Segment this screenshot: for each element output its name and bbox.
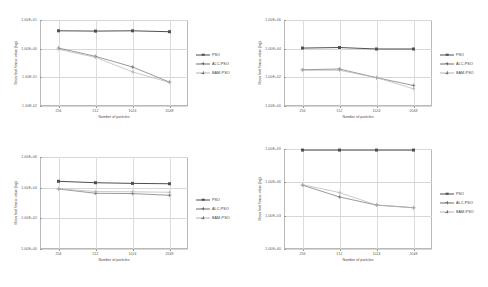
data-point-marker	[338, 149, 341, 152]
series-layer	[40, 20, 188, 106]
y-axis-tick-label: 1.00E+00	[21, 47, 40, 51]
legend-marker-icon	[446, 192, 449, 195]
x-axis-tick-label: 256	[300, 109, 306, 113]
legend-item-pso[interactable]: PSO	[440, 52, 474, 57]
data-point-marker	[57, 29, 60, 32]
legend-symbol-icon	[440, 200, 454, 205]
y-axis-tick-label: 1.00E+06	[265, 18, 284, 22]
series-layer	[284, 20, 432, 106]
x-axis-tick-label: 2048	[410, 252, 418, 256]
y-axis-tick-label: 1.00E-01	[22, 75, 40, 79]
y-axis-tick-label: 1.00E+02	[265, 75, 284, 79]
legend-item-pso[interactable]: PSO	[440, 191, 474, 196]
legend-label: PSO	[212, 53, 220, 57]
figure-grid: 1.00E-021.00E-011.00E+001.00E+0125651210…	[0, 0, 488, 287]
data-point-marker	[301, 68, 305, 72]
legend: PSOALC-PSOBAM-PSO	[440, 52, 474, 75]
data-point-marker	[412, 206, 416, 210]
legend-label: BAM-PSO	[212, 216, 230, 220]
legend-marker-icon	[201, 207, 204, 210]
legend-label: BAM-PSO	[456, 210, 474, 214]
data-point-marker	[94, 181, 97, 184]
legend-symbol-icon	[196, 61, 210, 66]
data-point-marker	[131, 182, 134, 185]
y-axis-tick-label: 1.00E-02	[22, 104, 40, 108]
legend-item-bam-pso[interactable]: BAM-PSO	[440, 209, 474, 214]
series-line-alc-pso	[303, 69, 414, 85]
data-point-marker	[131, 65, 135, 69]
legend-symbol-icon	[196, 70, 210, 75]
legend: PSOALC-PSOBAM-PSO	[196, 52, 230, 75]
y-axis-tick-label: 1.00E+02	[21, 216, 40, 220]
x-axis-tick-mark	[170, 106, 171, 108]
data-point-marker	[375, 149, 378, 152]
x-axis-tick-mark	[377, 249, 378, 251]
x-axis-tick-mark	[303, 249, 304, 251]
legend-marker-icon	[201, 62, 204, 65]
series-line-pso	[59, 181, 170, 183]
legend-marker-icon	[445, 62, 448, 65]
legend-item-bam-pso[interactable]: BAM-PSO	[196, 215, 230, 220]
data-point-marker	[168, 30, 171, 33]
data-point-marker	[131, 29, 134, 32]
y-axis-tick-label: 1.00E+09	[265, 147, 284, 151]
y-axis-tick-label: 1.00E+00	[265, 247, 284, 251]
data-point-marker	[412, 149, 415, 152]
x-axis-tick-mark	[303, 106, 304, 108]
series-layer	[284, 149, 432, 249]
series-line-bam-pso	[59, 189, 170, 193]
legend-item-bam-pso[interactable]: BAM-PSO	[196, 70, 230, 75]
data-point-marker	[338, 191, 342, 195]
series-line-bam-pso	[303, 185, 414, 208]
data-point-marker	[168, 190, 172, 194]
data-point-marker	[338, 46, 341, 49]
x-axis-tick-mark	[133, 106, 134, 108]
legend-label: ALC-PSO	[212, 62, 229, 66]
x-axis-tick-mark	[59, 106, 60, 108]
legend-label: PSO	[456, 192, 464, 196]
x-axis-tick-mark	[340, 106, 341, 108]
legend-symbol-icon	[440, 209, 454, 214]
series-line-pso	[59, 31, 170, 32]
x-axis-tick-label: 512	[337, 252, 343, 256]
chart-panel-top-left: 1.00E-021.00E-011.00E+001.00E+0125651210…	[0, 0, 244, 143]
legend-item-alc-pso[interactable]: ALC-PSO	[196, 61, 230, 66]
x-axis-tick-label: 512	[93, 109, 99, 113]
legend-marker-icon	[446, 53, 449, 56]
legend-item-bam-pso[interactable]: BAM-PSO	[440, 70, 474, 75]
data-point-marker	[412, 87, 416, 91]
y-axis-tick-label: 1.00E+00	[21, 247, 40, 251]
data-point-marker	[375, 76, 379, 80]
legend: PSOALC-PSOBAM-PSO	[440, 191, 474, 214]
data-point-marker	[168, 182, 171, 185]
y-axis-title: Mean final fitness value (log)	[14, 181, 18, 224]
data-point-marker	[412, 47, 415, 50]
legend-item-pso[interactable]: PSO	[196, 52, 230, 57]
legend-item-pso[interactable]: PSO	[196, 197, 230, 202]
y-axis-title: Mean final fitness value (log)	[14, 41, 18, 84]
x-axis-tick-label: 1024	[373, 252, 381, 256]
x-axis-tick-label: 512	[93, 252, 99, 256]
x-axis-tick-mark	[96, 106, 97, 108]
legend-label: ALC-PSO	[456, 201, 473, 205]
data-point-marker	[375, 203, 379, 207]
legend-item-alc-pso[interactable]: ALC-PSO	[196, 206, 230, 211]
plot-area: 1.00E+001.00E+021.00E+041.00E+0625651210…	[284, 20, 432, 106]
x-axis-title: Number of particles	[284, 115, 432, 119]
legend-item-alc-pso[interactable]: ALC-PSO	[440, 61, 474, 66]
chart-panel-bottom-left: 1.00E+001.00E+021.00E+041.00E+0625651210…	[0, 143, 244, 287]
data-point-marker	[338, 195, 342, 199]
data-point-marker	[57, 187, 61, 191]
legend-marker-icon	[201, 216, 204, 219]
data-point-marker	[301, 149, 304, 152]
legend-item-alc-pso[interactable]: ALC-PSO	[440, 200, 474, 205]
legend-label: ALC-PSO	[212, 207, 229, 211]
legend-symbol-icon	[196, 197, 210, 202]
legend: PSOALC-PSOBAM-PSO	[196, 197, 230, 220]
data-point-marker	[301, 47, 304, 50]
legend-marker-icon	[201, 71, 204, 74]
plot-area: 1.00E+001.00E+031.00E+061.00E+0925651210…	[284, 149, 432, 249]
x-axis-tick-label: 1024	[129, 252, 137, 256]
legend-label: ALC-PSO	[456, 62, 473, 66]
x-axis-tick-label: 512	[337, 109, 343, 113]
